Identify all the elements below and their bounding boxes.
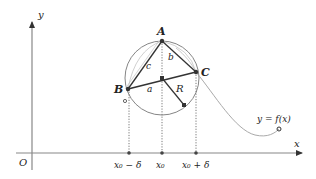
function-label: y = f(x) [256,114,291,124]
label-side-a: a [147,84,152,94]
point-below-B [123,99,126,102]
tick-label-x0-plus-delta: x₀ + δ [182,160,209,170]
point-C [194,70,198,74]
label-side-c: c [146,61,151,71]
point-A [160,39,164,43]
tick-x0 [160,151,164,155]
label-side-b: b [168,52,174,62]
tick-x0-plus-delta [194,151,198,155]
tick-label-x0: x₀ [156,160,165,170]
x-axis-label: x [294,138,300,149]
point-B [126,87,130,91]
origin-label: O [19,157,27,168]
label-C: C [201,66,210,79]
diagram-canvas: x y O A B C c b a R x₀ − δ x₀ x₀ + δ y =… [0,0,316,179]
secant-line-1 [125,41,159,89]
radius-endpoint [182,103,186,107]
circle-center [160,76,164,80]
function-curve [196,72,279,136]
tick-label-x0-minus-delta: x₀ − δ [114,160,141,170]
label-A: A [156,25,166,38]
label-B: B [113,83,123,96]
y-axis-label: y [37,9,44,20]
tick-x0-minus-delta [127,151,131,155]
label-radius-R: R [175,83,184,94]
